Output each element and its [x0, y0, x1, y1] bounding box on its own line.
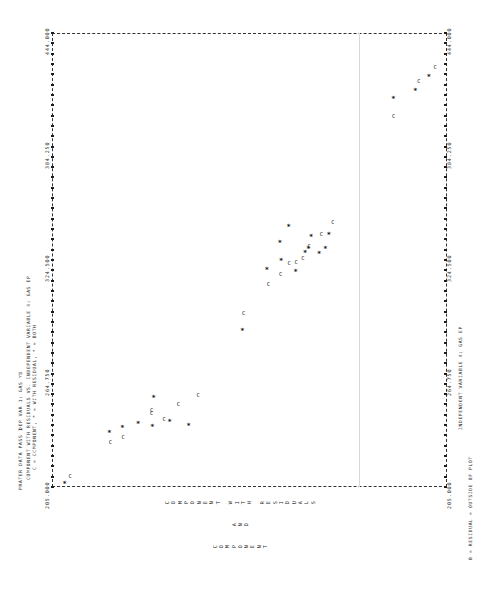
axis-tick-label: 324.500: [44, 255, 50, 282]
yaxis-label-line3: COMPONENT: [0, 542, 480, 548]
data-point-component: C: [331, 220, 334, 225]
data-point-residual: *: [286, 223, 290, 230]
data-point-component: C: [267, 282, 270, 287]
data-point-residual: *: [151, 394, 155, 401]
inner-rule: [359, 33, 360, 487]
data-point-residual: *: [323, 245, 327, 252]
data-point-residual: *: [120, 424, 124, 431]
data-point-residual: *: [168, 419, 172, 426]
data-point-residual: *: [391, 96, 395, 103]
plot-figure: CCCCCCCCCCCCCCCCCCCC********************…: [0, 0, 480, 593]
data-point-component: C: [109, 441, 112, 446]
data-point-residual: *: [63, 480, 67, 487]
header-line1: PRATER DATA PASS 1: [18, 428, 23, 490]
data-point-residual: *: [279, 257, 283, 264]
yaxis-label-line1: COMPONENT WITH RESIDUALS: [0, 498, 480, 504]
data-point-residual: *: [306, 245, 310, 252]
yaxis-label-block: COMPONENT WITH RESIDUALS AND COMPONENT: [0, 492, 480, 593]
data-point-component: C: [294, 260, 297, 265]
data-point-component: C: [177, 402, 180, 407]
data-point-residual: *: [309, 233, 313, 240]
data-point-component: C: [287, 261, 290, 266]
header-line2: DEP VAR 1: GAS YD: [18, 371, 23, 430]
plot-area: CCCCCCCCCCCCCCCCCCCC********************…: [52, 33, 447, 487]
data-point-component: C: [121, 435, 124, 440]
plot-title-line2: C = CCMPONENT, * = WITH RESIDUAL, * = BO…: [32, 324, 37, 470]
data-point-component: C: [163, 417, 166, 422]
data-point-component: C: [417, 79, 420, 84]
data-point-component: C: [197, 393, 200, 398]
axis-tick-label: 384.250: [44, 141, 50, 168]
axis-tick-label: 444.000: [44, 28, 50, 55]
axis-tick-label: 264.750: [44, 368, 50, 395]
axis-tick-label: 384.250: [446, 141, 452, 168]
yaxis-label-line2: AND: [0, 520, 480, 526]
data-point-component: C: [150, 409, 153, 414]
data-point-residual: *: [136, 421, 140, 428]
data-point-residual: *: [327, 232, 331, 239]
data-point-residual: *: [265, 267, 269, 274]
data-point-residual: *: [240, 327, 244, 334]
axis-tick-label: 444.000: [446, 28, 452, 55]
data-point-residual: *: [150, 423, 154, 430]
data-point-residual: *: [107, 429, 111, 436]
data-point-residual: *: [317, 251, 321, 258]
data-point-component: C: [279, 272, 282, 277]
data-point-residual: *: [187, 422, 191, 429]
plot-title-line1: COMPONENT WITH RESIDUALS VS. INDEPENDENT…: [26, 276, 31, 480]
data-point-component: C: [392, 114, 395, 119]
data-point-component: C: [242, 311, 245, 316]
data-point-residual: *: [294, 268, 298, 275]
axis-cap-top: [52, 33, 447, 34]
xaxis-label: INDEPENDENT VARIABLE 4: GAS EP: [458, 326, 463, 430]
axis-tick-label: 324.500: [446, 255, 452, 282]
data-point-residual: *: [278, 239, 282, 246]
data-point-component: C: [320, 232, 323, 237]
axis-tick-label: 264.750: [446, 368, 452, 395]
data-point-component: C: [69, 474, 72, 479]
axis-cap-bottom: [52, 486, 447, 487]
data-point-residual: *: [413, 88, 417, 95]
